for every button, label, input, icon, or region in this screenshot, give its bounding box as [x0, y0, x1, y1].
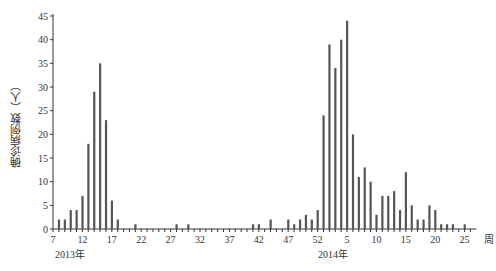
- svg-text:35: 35: [38, 58, 48, 69]
- svg-text:15: 15: [401, 234, 411, 245]
- svg-text:27: 27: [166, 234, 176, 245]
- bar: [446, 224, 448, 229]
- bar: [58, 220, 60, 229]
- svg-text:12: 12: [77, 234, 87, 245]
- bar: [464, 224, 466, 229]
- svg-text:22: 22: [136, 234, 146, 245]
- bar: [270, 220, 272, 229]
- bar: [258, 224, 260, 229]
- bar: [328, 44, 330, 229]
- bar: [364, 167, 366, 229]
- svg-text:25: 25: [460, 234, 470, 245]
- bar: [381, 196, 383, 229]
- bar: [293, 224, 295, 229]
- bar: [99, 63, 101, 229]
- bar: [417, 220, 419, 229]
- bar: [64, 220, 66, 229]
- year-label-2013: 2013年: [55, 246, 85, 261]
- bar: [117, 220, 119, 229]
- bar: [440, 224, 442, 229]
- svg-text:45: 45: [38, 11, 48, 22]
- bar: [422, 220, 424, 229]
- bar: [252, 224, 254, 229]
- bar: [76, 210, 78, 229]
- bar: [105, 120, 107, 229]
- svg-text:10: 10: [371, 234, 381, 245]
- bar: [399, 210, 401, 229]
- bar: [405, 172, 407, 229]
- svg-text:10: 10: [38, 176, 48, 187]
- svg-text:47: 47: [283, 234, 293, 245]
- bar: [387, 196, 389, 229]
- bars: [58, 21, 466, 229]
- bar: [305, 215, 307, 229]
- bar: [346, 21, 348, 229]
- bar: [334, 68, 336, 229]
- svg-text:20: 20: [38, 129, 48, 140]
- bar: [187, 224, 189, 229]
- bar: [70, 210, 72, 229]
- axes: [50, 14, 476, 232]
- svg-text:15: 15: [38, 153, 48, 164]
- svg-text:42: 42: [254, 234, 264, 245]
- bar: [352, 134, 354, 229]
- bar: [375, 215, 377, 229]
- bar: [340, 40, 342, 229]
- svg-text:40: 40: [38, 34, 48, 45]
- bar: [322, 115, 324, 229]
- y-axis-label: 确诊病例数（人）: [10, 80, 30, 168]
- bar: [111, 201, 113, 229]
- bar: [370, 182, 372, 229]
- svg-text:5: 5: [43, 200, 48, 211]
- svg-text:52: 52: [313, 234, 323, 245]
- bar: [317, 210, 319, 229]
- bar: [311, 220, 313, 229]
- year-label-2014: 2014年: [318, 246, 348, 261]
- bar: [452, 224, 454, 229]
- svg-text:0: 0: [43, 224, 48, 235]
- svg-text:25: 25: [38, 105, 48, 116]
- bar: [393, 191, 395, 229]
- svg-text:32: 32: [195, 234, 205, 245]
- bar: [93, 92, 95, 229]
- bar: [81, 196, 83, 229]
- bar: [287, 220, 289, 229]
- bar: [299, 220, 301, 229]
- svg-text:5: 5: [345, 234, 350, 245]
- bar: [358, 177, 360, 229]
- bar: [434, 210, 436, 229]
- svg-text:20: 20: [430, 234, 440, 245]
- svg-text:17: 17: [107, 234, 117, 245]
- bar: [411, 205, 413, 229]
- svg-text:周: 周: [484, 234, 494, 245]
- bar: [134, 224, 136, 229]
- svg-text:7: 7: [51, 234, 56, 245]
- bar: [428, 205, 430, 229]
- bar: [175, 224, 177, 229]
- svg-text:30: 30: [38, 82, 48, 93]
- bar-chart: 0510152025303540457121722273237424752510…: [0, 0, 496, 271]
- bar: [87, 144, 89, 229]
- svg-text:37: 37: [224, 234, 234, 245]
